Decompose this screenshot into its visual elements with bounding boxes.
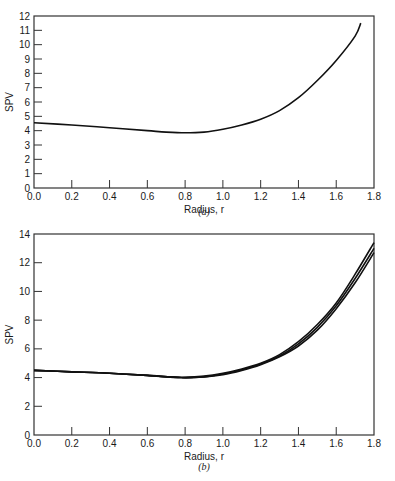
data-line xyxy=(34,248,374,377)
chart-figure: 01234567891011120.00.20.40.60.81.01.21.4… xyxy=(0,0,395,481)
y-tick-label: 12 xyxy=(19,257,31,268)
y-tick-label: 1 xyxy=(24,168,30,179)
y-tick-label: 9 xyxy=(24,54,30,65)
x-tick-label: 1.4 xyxy=(291,191,305,202)
x-tick-label: 1.0 xyxy=(216,438,230,449)
y-tick-label: 5 xyxy=(24,111,30,122)
x-tick-label: 0.2 xyxy=(65,191,79,202)
data-line xyxy=(34,243,374,378)
y-tick-label: 10 xyxy=(19,39,31,50)
x-tick-label: 0.4 xyxy=(103,191,117,202)
x-tick-label: 1.2 xyxy=(254,191,268,202)
chart-panel-b: 024681012140.00.20.40.60.81.01.21.41.61.… xyxy=(4,229,381,474)
x-tick-label: 1.2 xyxy=(254,438,268,449)
x-tick-label: 0.0 xyxy=(27,438,41,449)
data-line xyxy=(34,253,374,378)
y-tick-label: 8 xyxy=(24,315,30,326)
x-tick-label: 1.8 xyxy=(367,438,381,449)
y-tick-label: 14 xyxy=(19,229,31,240)
x-tick-label: 0.8 xyxy=(178,438,192,449)
y-tick-label: 11 xyxy=(20,25,31,36)
x-tick-label: 1.6 xyxy=(329,438,343,449)
y-tick-label: 2 xyxy=(24,154,30,165)
data-line xyxy=(34,23,361,133)
x-tick-label: 0.6 xyxy=(140,438,154,449)
plot-frame xyxy=(34,16,374,188)
y-tick-label: 8 xyxy=(24,68,30,79)
y-tick-label: 4 xyxy=(24,125,30,136)
x-tick-label: 1.0 xyxy=(216,191,230,202)
y-axis-label: SPV xyxy=(4,324,15,344)
x-tick-label: 0.2 xyxy=(65,438,79,449)
y-axis-label: SPV xyxy=(4,92,15,112)
panel-caption: (b) xyxy=(198,461,210,473)
y-tick-label: 10 xyxy=(19,286,31,297)
x-tick-label: 1.4 xyxy=(291,438,305,449)
x-tick-label: 1.8 xyxy=(367,191,381,202)
panel-caption: (a) xyxy=(198,206,210,218)
x-tick-label: 0.4 xyxy=(103,438,117,449)
y-tick-label: 7 xyxy=(24,82,30,93)
chart-panel-a: 01234567891011120.00.20.40.60.81.01.21.4… xyxy=(4,11,381,219)
y-tick-label: 2 xyxy=(24,401,30,412)
x-tick-label: 1.6 xyxy=(329,191,343,202)
y-tick-label: 4 xyxy=(24,372,30,383)
y-tick-label: 3 xyxy=(24,140,30,151)
x-tick-label: 0.8 xyxy=(178,191,192,202)
x-tick-label: 0.6 xyxy=(140,191,154,202)
y-tick-label: 12 xyxy=(19,11,31,22)
y-tick-label: 6 xyxy=(24,97,30,108)
y-tick-label: 6 xyxy=(24,343,30,354)
plot-frame xyxy=(34,234,374,435)
x-tick-label: 0.0 xyxy=(27,191,41,202)
